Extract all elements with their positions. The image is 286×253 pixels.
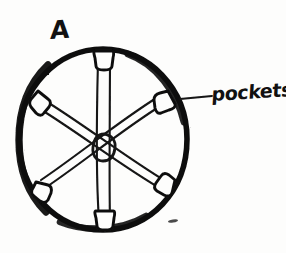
- callout-label-pockets: pockets: [211, 78, 286, 105]
- callout-leader-line: [180, 96, 212, 99]
- sketch-page: A pockets: [0, 0, 286, 253]
- pockets-group: [30, 51, 176, 230]
- stray-pencil-mark: [168, 219, 178, 224]
- pocket-upper-left[interactable]: [30, 91, 51, 115]
- pocket-top[interactable]: [94, 51, 114, 70]
- spokes-group: [40, 60, 167, 220]
- hand-drawn-diagram: [0, 0, 286, 253]
- pocket-bottom[interactable]: [95, 211, 115, 230]
- panel-label-a: A: [50, 15, 70, 45]
